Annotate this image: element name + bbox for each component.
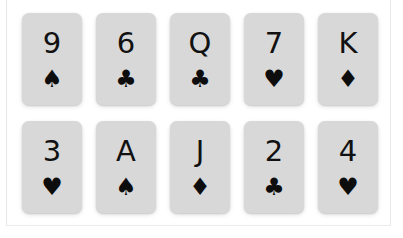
club-icon: ♣ [263, 175, 285, 199]
card-3[interactable]: Q ♣ [170, 13, 230, 105]
card-1[interactable]: 9 ♠ [22, 13, 82, 105]
card-rank: A [116, 137, 136, 166]
diamond-icon: ♦ [189, 175, 211, 199]
spade-icon: ♠ [115, 175, 137, 199]
spade-icon: ♠ [41, 67, 63, 91]
club-icon: ♣ [189, 67, 211, 91]
card-5[interactable]: K ♦ [318, 13, 378, 105]
card-10[interactable]: 4 ♥ [318, 121, 378, 213]
card-rank: 6 [117, 29, 135, 58]
card-6[interactable]: 3 ♥ [22, 121, 82, 213]
card-rank: J [196, 137, 205, 166]
card-rank: 9 [43, 29, 61, 58]
heart-icon: ♥ [263, 67, 285, 91]
card-grid-canvas: 9 ♠ 6 ♣ Q ♣ 7 ♥ K ♦ 3 ♥ A ♠ J ♦ [0, 0, 403, 238]
card-grid: 9 ♠ 6 ♣ Q ♣ 7 ♥ K ♦ 3 ♥ A ♠ J ♦ [22, 13, 378, 213]
card-2[interactable]: 6 ♣ [96, 13, 156, 105]
heart-icon: ♥ [41, 175, 63, 199]
club-icon: ♣ [115, 67, 137, 91]
card-7[interactable]: A ♠ [96, 121, 156, 213]
card-rank: K [338, 29, 357, 58]
card-rank: 3 [43, 137, 61, 166]
card-4[interactable]: 7 ♥ [244, 13, 304, 105]
heart-icon: ♥ [337, 175, 359, 199]
card-9[interactable]: 2 ♣ [244, 121, 304, 213]
card-rank: 2 [265, 137, 283, 166]
card-rank: Q [189, 29, 212, 58]
card-8[interactable]: J ♦ [170, 121, 230, 213]
diamond-icon: ♦ [337, 67, 359, 91]
card-rank: 7 [265, 29, 283, 58]
card-rank: 4 [339, 137, 357, 166]
